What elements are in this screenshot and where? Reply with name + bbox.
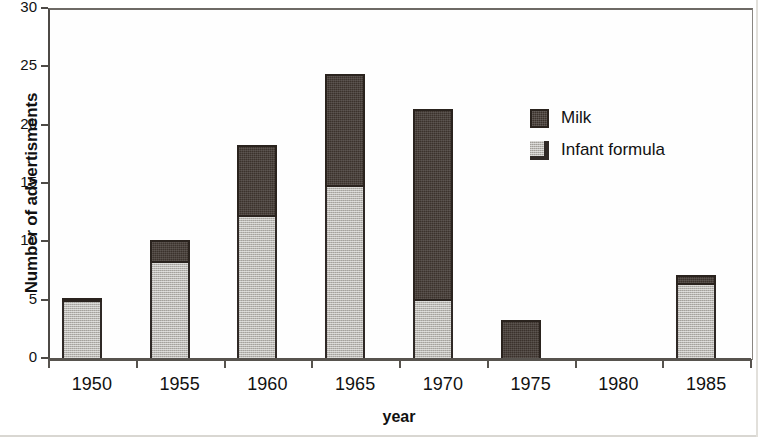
x-tick-mark [48,359,50,368]
x-tick-label: 1965 [310,374,400,395]
bar-segment-milk [150,240,190,263]
x-tick-label: 1985 [661,374,751,395]
y-tick-label: 15 [0,173,37,190]
y-tick-label: 25 [0,56,37,73]
x-tick-label: 1980 [573,374,663,395]
bar-segment-infant-formula [62,302,102,360]
legend-label-milk: Milk [561,108,591,128]
x-tick-mark [662,359,664,368]
legend-item-milk: Milk [530,104,665,132]
y-tick-label: 30 [0,0,37,15]
y-tick-label: 5 [0,290,37,307]
legend-label-infant-formula: Infant formula [561,140,665,160]
bar-segment-infant-formula [150,263,190,360]
x-tick-label: 1955 [135,374,225,395]
bar-segment-infant-formula [325,187,365,360]
bar-segment-milk [676,275,716,286]
bar-stack [413,109,453,360]
y-tick-label: 20 [0,115,37,132]
x-tick-mark [311,359,313,368]
bar-stack [501,320,541,360]
y-tick-mark [41,240,48,242]
x-tick-mark [575,359,577,368]
y-tick-label: 10 [0,231,37,248]
x-tick-label: 1950 [47,374,137,395]
x-tick-mark [224,359,226,368]
y-tick-mark [41,182,48,184]
y-tick-mark [41,65,48,67]
bar-chart: Number of advertisments 051015202530 Mil… [0,0,758,437]
x-axis-title: year [48,408,750,426]
y-tick-mark [41,357,48,359]
x-tick-label: 1960 [222,374,312,395]
plot-area: Milk Infant formula [48,8,753,360]
legend-swatch-milk-icon [530,109,549,128]
bar-stack [676,275,716,360]
bar-segment-infant-formula [676,285,716,360]
chart-legend: Milk Infant formula [530,104,665,168]
x-tick-label: 1975 [486,374,576,395]
x-tick-mark [399,359,401,368]
bar-stack [150,240,190,360]
y-tick-mark [41,7,48,9]
y-tick-label: 0 [0,348,37,365]
bar-segment-milk [325,74,365,187]
x-tick-mark [487,359,489,368]
bar-segment-milk [237,145,277,216]
bar-stack [62,298,102,360]
x-tick-mark [136,359,138,368]
bar-segment-milk [501,320,541,360]
bar-stack [325,74,365,360]
bar-segment-milk [413,109,453,300]
x-tick-mark [750,359,752,368]
bar-segment-infant-formula [237,217,277,361]
y-tick-mark [41,299,48,301]
legend-swatch-infant-formula-icon [530,141,549,160]
y-tick-mark [41,124,48,126]
legend-item-infant-formula: Infant formula [530,136,665,164]
x-tick-label: 1970 [398,374,488,395]
bar-segment-infant-formula [413,301,453,361]
bar-stack [237,145,277,360]
bar-segment-milk [62,298,102,302]
